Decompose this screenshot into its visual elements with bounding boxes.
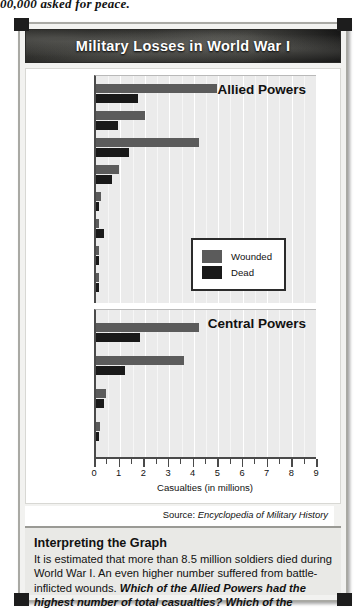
x-axis-tick-label: 8 [289,468,294,478]
x-axis-tick [180,459,181,464]
x-axis-tick [193,459,195,467]
x-axis-tick [316,459,318,467]
bar-row: Bulgaria [96,415,316,448]
bar-wounded [96,246,99,255]
central-bar-rows: GermanyAustria-HungaryTurkeyBulgaria [96,310,316,457]
x-axis-tick [254,459,255,464]
x-axis-tick [119,459,121,467]
allied-plot-area: RussiaBritishEmpireFranceItalyUnitedStat… [94,75,316,303]
bar-dead [96,399,104,408]
bar-wounded [96,192,101,201]
bar-row: Italy [96,161,316,188]
x-axis-tick-label: 3 [165,468,170,478]
interpreting-body: It is estimated that more than 8.5 milli… [34,552,332,608]
bar-row: Austria-Hungary [96,349,316,382]
corner-bracket-bottom-left [14,593,29,606]
bar-wounded [96,273,99,282]
chart-legend: Wounded Dead [191,238,286,291]
bar-dead [96,202,99,211]
x-axis-tick [156,459,157,464]
source-prefix: Source: [163,509,195,520]
bar-wounded [96,165,119,174]
bar-dead [96,256,99,265]
x-axis-tick-label: 2 [141,468,146,478]
bar-wounded [96,422,100,431]
x-axis-tick [131,459,132,464]
legend-label-dead: Dead [231,267,254,278]
x-axis-tick [217,459,219,467]
bar-wounded [96,356,184,365]
bar-dead [96,229,104,238]
x-axis-tick-label: 7 [264,468,269,478]
central-panel-caption: Central Powers [208,316,306,331]
bar-wounded [96,111,145,120]
bar-dead [96,432,99,441]
x-axis-tick [94,459,96,467]
x-axis-tick-label: 5 [215,468,220,478]
bar-dead [96,175,112,184]
bar-dead [96,366,125,375]
x-axis-tick [230,459,231,464]
bar-dead [96,283,99,292]
bar-wounded [96,323,199,332]
chart-allied-powers: RussiaBritishEmpireFranceItalyUnitedStat… [26,75,340,303]
x-axis-tick-label: 6 [239,468,244,478]
x-axis-tick [267,459,269,467]
bar-dead [96,121,118,130]
corner-bracket-bottom-right [337,593,352,606]
bar-dead [96,94,138,103]
interpreting-box: Interpreting the Graph It is estimated t… [25,526,341,595]
corner-bracket-top-left [14,18,29,31]
bar-row: Turkey [96,382,316,415]
legend-item-wounded: Wounded [202,250,272,263]
bar-wounded [96,219,99,228]
page-cutoff-text: 00,000 asked for peace. [0,0,220,12]
interpreting-heading: Interpreting the Graph [34,536,332,550]
x-axis-tick-label: 4 [190,468,195,478]
x-axis-tick [291,459,293,467]
legend-swatch-wounded [202,250,222,263]
bar-dead [96,148,129,157]
x-axis-tick [168,459,170,467]
x-axis-tick [304,459,305,464]
x-axis-tick [143,459,145,467]
x-axis-tick-label: 1 [116,468,121,478]
figure-frame: Military Losses in World War I RussiaBri… [18,22,348,602]
central-plot-area: GermanyAustria-HungaryTurkeyBulgaria Cen… [94,309,316,457]
chart-central-powers: GermanyAustria-HungaryTurkeyBulgaria Cen… [26,309,340,499]
bar-row: BritishEmpire [96,107,316,134]
figure-title-banner: Military Losses in World War I [25,29,341,63]
x-axis-tick-label: 0 [91,468,96,478]
x-axis-tick [279,459,280,464]
x-axis-tick-label: 9 [313,468,318,478]
allied-panel-caption: Allied Powers [217,82,306,97]
x-axis-tick [242,459,244,467]
figure-source: Source: Encyclopedia of Military History [25,506,334,526]
source-title: Encyclopedia of Military History [198,509,328,520]
x-axis-tick [106,459,107,464]
legend-swatch-dead [202,266,222,279]
legend-item-dead: Dead [202,266,272,279]
x-axis-tick [205,459,206,464]
bar-dead [96,333,140,342]
bar-wounded [96,389,106,398]
bar-row: France [96,134,316,161]
page-root: 00,000 asked for peace. Military Losses … [0,0,362,608]
figure-title: Military Losses in World War I [76,38,290,54]
x-axis-title: Casualties (in millions) [94,482,316,493]
corner-bracket-top-right [337,18,352,31]
bar-row: UnitedStates [96,188,316,215]
bar-wounded [96,138,199,147]
legend-label-wounded: Wounded [231,251,272,262]
bar-wounded [96,84,217,93]
x-axis: Casualties (in millions) 0123456789 [94,457,316,499]
charts-container: RussiaBritishEmpireFranceItalyUnitedStat… [25,68,341,504]
